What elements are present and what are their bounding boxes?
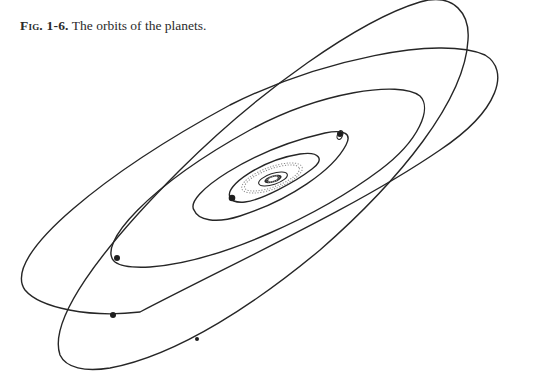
- neptune-planet: [110, 312, 116, 318]
- pluto-planet: [195, 337, 199, 341]
- jupiter-planet: [229, 195, 236, 202]
- orbit-diagram: [0, 0, 538, 390]
- uranus-planet: [114, 255, 120, 261]
- saturn-orbit: [193, 132, 348, 221]
